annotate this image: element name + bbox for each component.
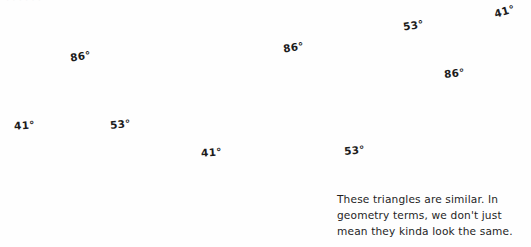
triangle-large-middle-bottom-right-angle: 53° bbox=[344, 143, 366, 157]
triangle-small-left-bottom-right-angle: 53° bbox=[109, 117, 131, 131]
triangle-large-middle-bottom-left-angle: 41° bbox=[201, 145, 223, 158]
cropped-text-remnant: · · · · · · bbox=[6, 0, 41, 1]
caption-line-3: mean they kinda look the same. bbox=[337, 223, 527, 239]
caption-line-1: These triangles are similar. In bbox=[337, 191, 527, 207]
triangle-small-left-bottom-left-angle: 41° bbox=[14, 118, 36, 131]
triangle-rotated-right-bottom-angle: 86° bbox=[443, 66, 465, 80]
annotation-caption: These triangles are similar. In geometry… bbox=[337, 191, 527, 239]
caption-line-2: geometry terms, we don't just bbox=[337, 207, 527, 223]
handwritten-geometry-figure: · · · · · · bbox=[0, 0, 531, 247]
